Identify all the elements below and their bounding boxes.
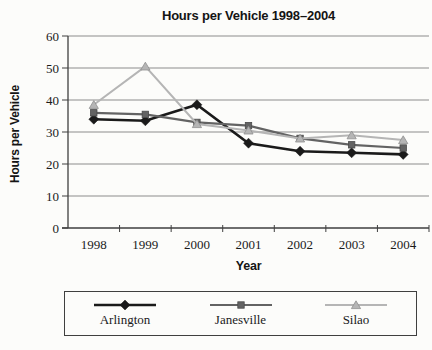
svg-text:2004: 2004 [390,237,417,252]
legend-item-janesville: Janesville [191,298,291,327]
svg-text:20: 20 [46,157,59,172]
chart-figure: Hours per Vehicle 1998–2004 Hours per Ve… [0,0,432,350]
legend-label-silao: Silao [343,313,370,327]
svg-text:1999: 1999 [132,237,158,252]
svg-text:50: 50 [46,61,59,76]
legend-item-arlington: Arlington [75,298,175,327]
svg-text:40: 40 [46,93,59,108]
svg-text:10: 10 [46,189,59,204]
svg-text:2003: 2003 [339,237,365,252]
svg-text:30: 30 [46,125,59,140]
svg-text:0: 0 [53,221,60,236]
svg-text:2000: 2000 [184,237,210,252]
x-axis-title: Year [68,259,429,273]
legend-label-janesville: Janesville [215,313,266,327]
svg-text:1998: 1998 [81,237,107,252]
arlington-line-sample-icon [93,298,157,313]
silao-line-sample-icon [324,298,388,313]
legend-item-silao: Silao [306,298,406,327]
svg-text:2001: 2001 [236,237,262,252]
chart-legend: Arlington Janesville Silao [64,291,417,336]
janesville-line-sample-icon [209,298,273,313]
legend-label-arlington: Arlington [100,313,151,327]
svg-text:2002: 2002 [287,237,313,252]
svg-text:60: 60 [46,29,59,44]
